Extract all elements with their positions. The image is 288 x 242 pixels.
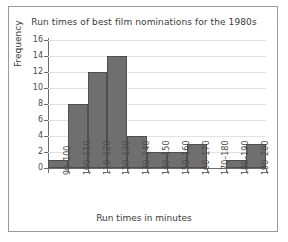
y-axis-tick-mark — [44, 136, 48, 137]
gridline — [48, 40, 266, 41]
y-axis-tick-mark — [44, 72, 48, 73]
y-axis-tick-label: 16 — [13, 36, 43, 44]
y-axis-tick-labels: 0246810121416 — [9, 7, 43, 233]
x-axis-tick-mark — [266, 169, 267, 173]
x-axis-tick-mark — [147, 169, 148, 173]
y-axis-tick-mark — [44, 40, 48, 41]
y-axis-tick-label: 4 — [13, 132, 43, 140]
y-axis-tick-label: 14 — [13, 52, 43, 60]
gridline — [48, 88, 266, 89]
y-axis-tick-label: 0 — [13, 164, 43, 172]
y-axis-tick-label: 12 — [13, 68, 43, 76]
y-axis-tick-mark — [44, 104, 48, 105]
x-axis-title: Run times in minutes — [9, 213, 279, 223]
x-axis-tick-mark — [48, 169, 49, 173]
y-axis-tick-mark — [44, 120, 48, 121]
y-axis-tick-label: 6 — [13, 116, 43, 124]
y-axis-tick-mark — [44, 88, 48, 89]
y-axis-tick-mark — [44, 152, 48, 153]
y-axis-tick-label: 2 — [13, 148, 43, 156]
x-axis-tick-mark — [167, 169, 168, 173]
x-axis-tick-mark — [88, 169, 89, 173]
gridline — [48, 72, 266, 73]
y-axis-tick-mark — [44, 56, 48, 57]
chart-title: Run times of best film nominations for t… — [9, 17, 279, 27]
x-axis-tick-mark — [68, 169, 69, 173]
chart-figure-frame: Run times of best film nominations for t… — [8, 6, 278, 232]
x-axis-tick-mark — [127, 169, 128, 173]
y-axis-tick-label: 8 — [13, 100, 43, 108]
x-axis-tick-mark — [226, 169, 227, 173]
plot-area — [48, 40, 266, 168]
gridline — [48, 56, 266, 57]
x-axis-tick-mark — [246, 169, 247, 173]
x-axis-tick-mark — [187, 169, 188, 173]
x-axis-tick-mark — [207, 169, 208, 173]
x-axis-tick-mark — [107, 169, 108, 173]
y-axis-tick-label: 10 — [13, 84, 43, 92]
x-axis-line — [48, 168, 267, 169]
